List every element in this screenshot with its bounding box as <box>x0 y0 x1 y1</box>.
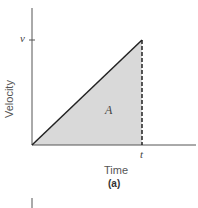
y-axis-label: Velocity <box>3 80 15 118</box>
x-axis-label: Time <box>104 164 128 176</box>
t-tick-label: t <box>140 148 143 160</box>
panel-label: (a) <box>108 178 120 189</box>
v-tick-label: v <box>20 32 25 44</box>
velocity-time-graph <box>0 0 198 208</box>
area-label: A <box>105 103 112 118</box>
